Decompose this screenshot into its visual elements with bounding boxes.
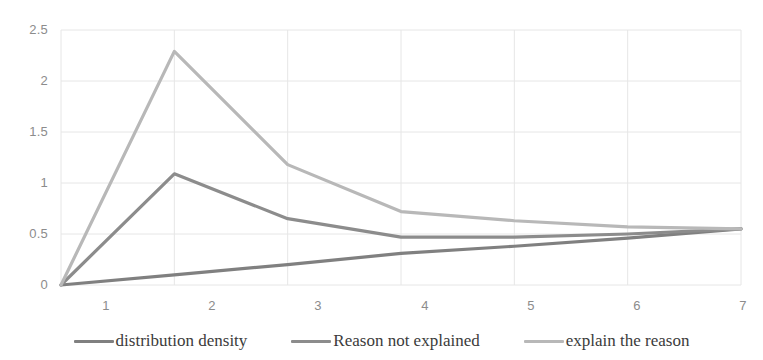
legend-item[interactable]: explain the reason (524, 331, 690, 351)
line-chart: 2.5 2 1.5 1 0.5 0 1 2 3 4 5 6 7 distribu… (0, 0, 763, 360)
legend-item-label: Reason not explained (333, 331, 479, 351)
legend-color-swatch (74, 340, 114, 343)
legend-item[interactable]: Reason not explained (291, 331, 479, 351)
legend-item-label: explain the reason (566, 331, 690, 351)
chart-legend: distribution density Reason not explaine… (0, 326, 763, 356)
plot-area (0, 0, 763, 360)
legend-color-swatch (291, 340, 331, 343)
legend-item[interactable]: distribution density (74, 331, 248, 351)
gridlines (61, 30, 741, 285)
legend-item-label: distribution density (116, 331, 248, 351)
legend-color-swatch (524, 340, 564, 343)
